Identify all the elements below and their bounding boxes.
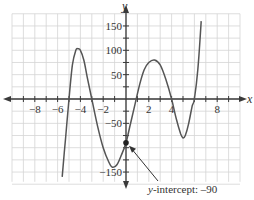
y-tick-label: 50	[111, 69, 123, 81]
y-tick-label: −50	[105, 117, 123, 129]
axes	[3, 5, 247, 189]
y-axis-down-arrow-icon	[123, 181, 129, 189]
y-tick-label: −150	[99, 166, 122, 178]
y-axis-label: y	[121, 0, 128, 13]
y-intercept-text: -intercept: –90	[153, 183, 218, 195]
annotation-arrowhead-icon	[129, 146, 136, 153]
x-axis-label: x	[246, 92, 253, 106]
y-intercept-point	[123, 140, 129, 146]
y-tick-label: 100	[106, 44, 123, 56]
x-axis-right-arrow-icon	[239, 96, 247, 102]
x-tick-label: −2	[97, 103, 109, 115]
y-intercept-annotation	[123, 140, 158, 181]
y-tick-label: 150	[106, 20, 123, 32]
x-tick-label: −8	[29, 103, 41, 115]
annotation-arrow-line	[130, 147, 158, 181]
polynomial-graph: −8−6−4−224815010050−50−150 x y y-interce…	[0, 0, 254, 200]
x-tick-label: −6	[52, 103, 64, 115]
x-tick-label: −4	[75, 103, 87, 115]
x-tick-label: 2	[146, 103, 152, 115]
x-axis-left-arrow-icon	[3, 96, 11, 102]
y-intercept-label: y-intercept: –90	[147, 183, 218, 195]
x-tick-label: 8	[214, 103, 220, 115]
